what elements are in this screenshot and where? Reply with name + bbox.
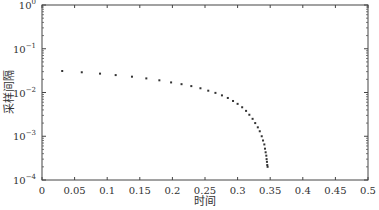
data-point [99,73,101,75]
x-tick-label: 0.15 [129,185,151,196]
data-point [61,70,63,72]
data-point [131,76,133,78]
data-point [245,110,247,112]
data-point [266,161,268,163]
data-point [241,106,243,108]
data-point [252,118,254,120]
data-point [265,155,267,157]
data-point [254,122,256,124]
data-point [221,94,223,96]
x-tick-label: 0 [39,185,45,196]
data-point [181,83,183,85]
data-point [257,126,259,128]
x-tick-label: 0.05 [63,185,85,196]
y-tick-label: 100 [19,0,36,11]
data-point [81,71,83,73]
data-point [190,85,192,87]
y-tick-label: 10−2 [13,86,36,99]
plot-area [42,5,368,180]
data-point [145,77,147,79]
y-tick-label: 10−3 [13,129,36,142]
data-point [227,97,229,99]
data-point [263,143,265,145]
chart: 00.050.10.150.20.250.30.350.40.450.5 100… [0,0,379,210]
x-axis-label: 时间 [194,195,216,208]
data-point [170,81,172,83]
data-point [248,114,250,116]
data-point [261,135,263,137]
data-point [259,130,261,132]
data-point [237,103,239,105]
x-tick-label: 0.35 [259,185,281,196]
data-point [158,79,160,81]
y-tick-label: 10−1 [13,42,36,55]
data-point [267,166,269,168]
data-point [265,151,267,153]
data-point [115,74,117,76]
x-tick-label: 0.2 [164,185,180,196]
data-point [214,92,216,94]
data-point [266,164,268,166]
y-axis-label: 采样间隔 [2,70,16,114]
data-point [262,139,264,141]
y-tick-label: 10−4 [13,173,37,186]
x-tick-label: 0.5 [360,185,376,196]
data-point [199,87,201,89]
data-point [207,90,209,92]
data-point [232,100,234,102]
x-tick-label: 0.4 [295,185,311,196]
x-tick-label: 0.1 [99,185,115,196]
x-tick-label: 0.3 [230,185,246,196]
x-tick-label: 0.45 [324,185,346,196]
data-point [264,148,266,150]
data-point [266,158,268,160]
